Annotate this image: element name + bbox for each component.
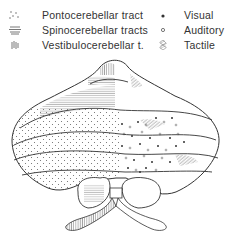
cerebellum-diagram — [0, 0, 232, 241]
lower-lobes — [66, 177, 167, 230]
